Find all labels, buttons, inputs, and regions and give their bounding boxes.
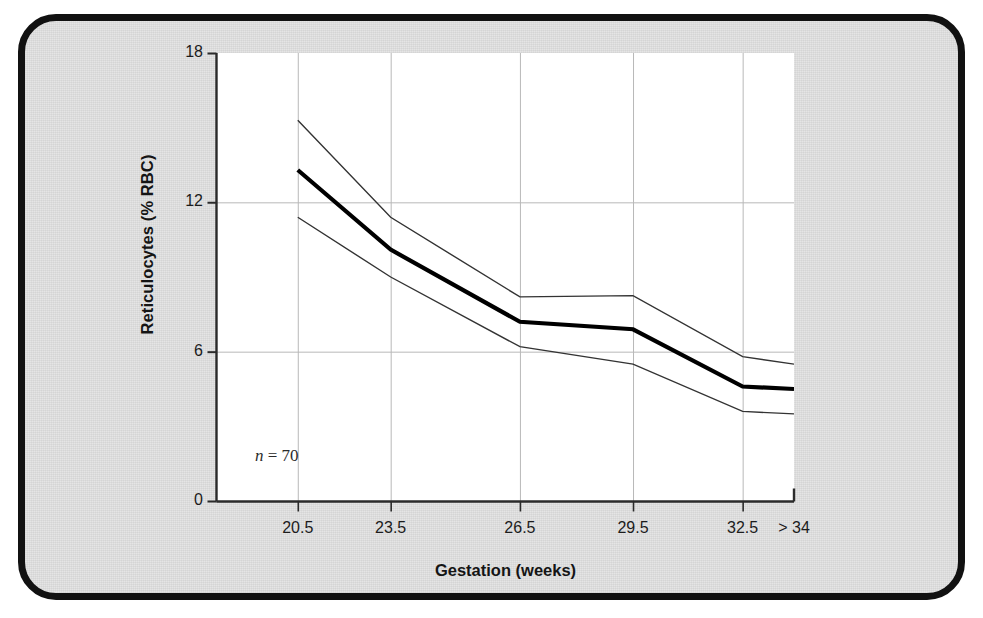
plot-wrapper: 061218 20.523.526.529.532.5> 34 Reticulo… bbox=[25, 21, 965, 600]
sample-size-value: = 70 bbox=[268, 446, 299, 465]
y-tick-label: 18 bbox=[161, 43, 203, 61]
x-axis-title: Gestation (weeks) bbox=[217, 561, 794, 580]
y-tick-label: 0 bbox=[161, 491, 203, 509]
sample-size-symbol: n bbox=[255, 446, 264, 465]
figure-frame: 061218 20.523.526.529.532.5> 34 Reticulo… bbox=[18, 14, 965, 600]
x-tick-label: > 34 bbox=[754, 519, 834, 537]
x-tick-label: 26.5 bbox=[480, 519, 560, 537]
x-tick-label: 29.5 bbox=[593, 519, 673, 537]
chart-svg bbox=[217, 53, 794, 501]
y-axis-title: Reticulocytes (% RBC) bbox=[138, 95, 157, 395]
plot-area bbox=[217, 53, 794, 501]
sample-size-annotation: n = 70 bbox=[255, 446, 299, 466]
y-tick-label: 12 bbox=[161, 192, 203, 210]
data-series-group bbox=[298, 120, 794, 414]
x-tick-label: 20.5 bbox=[258, 519, 338, 537]
gridlines bbox=[217, 53, 794, 501]
x-tick-label: 23.5 bbox=[351, 519, 431, 537]
y-tick-label: 6 bbox=[161, 342, 203, 360]
